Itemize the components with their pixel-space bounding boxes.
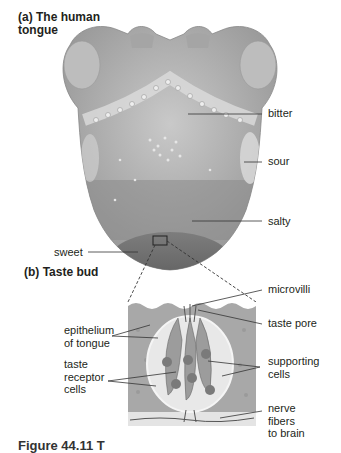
label-microvilli: microvilli (268, 283, 310, 296)
label-epithelium-line2: of tongue (64, 337, 114, 350)
label-sour: sour (268, 155, 289, 168)
label-bitter: bitter (268, 107, 292, 120)
panel-b-title: (b) Taste bud (24, 266, 98, 279)
label-nerve-line1: nerve (268, 402, 305, 415)
label-supporting-cells: supporting cells (268, 355, 319, 380)
panel-a-title: (a) The human tongue (18, 11, 100, 37)
label-sweet: sweet (54, 246, 83, 259)
label-taste-pore: taste pore (268, 317, 317, 330)
label-epithelium: epithelium of tongue (64, 324, 114, 349)
label-salty: salty (268, 215, 291, 228)
label-taste-line3: cells (64, 383, 104, 396)
label-taste-line1: taste (64, 358, 104, 371)
label-nerve-line3: to brain (268, 427, 305, 440)
panel-a-title-line2: tongue (18, 24, 100, 37)
label-supporting-line2: cells (268, 368, 319, 381)
figure-caption: Figure 44.11 T (18, 438, 105, 453)
label-nerve-fibers: nerve fibers to brain (268, 402, 305, 440)
label-epithelium-line1: epithelium (64, 324, 114, 337)
label-nerve-line2: fibers (268, 415, 305, 428)
label-taste-receptor-cells: taste receptor cells (64, 358, 104, 396)
label-taste-line2: receptor (64, 371, 104, 384)
label-supporting-line1: supporting (268, 355, 319, 368)
